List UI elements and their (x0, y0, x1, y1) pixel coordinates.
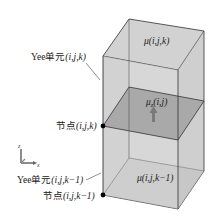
label-mu-bottom: μ(i,j,k−1) (136, 173, 174, 184)
axis-icon: z x (17, 143, 40, 168)
svg-text:x: x (36, 162, 40, 168)
yee-cell-diagram: μ(i,j,k) μz(i,j) μ(i,j,k−1) Yee单元(i,j,k)… (0, 0, 218, 224)
label-node-bottom: 节点(i,j,k−1) (43, 191, 95, 202)
node-bottom (101, 193, 106, 198)
leader-yee-bottom (86, 173, 101, 180)
node-top (101, 124, 106, 129)
label-node-top: 节点(i,j,k) (56, 121, 97, 132)
label-yee-bottom: Yee单元(i,j,k−1) (17, 174, 83, 186)
svg-text:z: z (17, 143, 21, 149)
label-mu-z: μz(i,j) (145, 97, 167, 108)
label-yee-top: Yee单元(i,j,k) (31, 51, 86, 63)
label-mu-top: μ(i,j,k) (143, 36, 169, 47)
leader-yee-top (86, 63, 100, 80)
